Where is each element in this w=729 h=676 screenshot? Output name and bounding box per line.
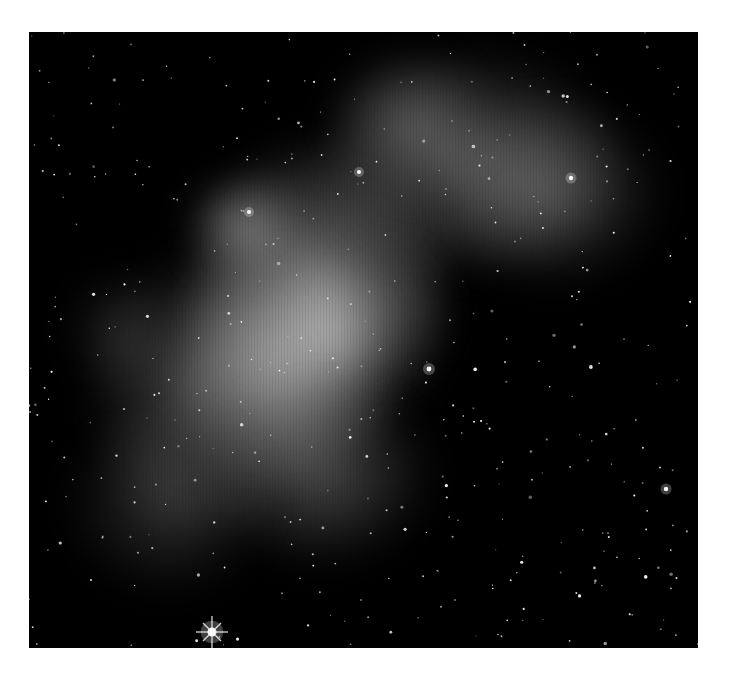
bright-star bbox=[661, 484, 672, 495]
star-field bbox=[29, 32, 698, 648]
nebula-image bbox=[29, 32, 698, 648]
bright-star bbox=[244, 207, 254, 217]
bright-star bbox=[423, 363, 435, 375]
bright-star bbox=[196, 616, 228, 648]
bright-star bbox=[354, 167, 364, 177]
bright-star bbox=[566, 173, 577, 184]
